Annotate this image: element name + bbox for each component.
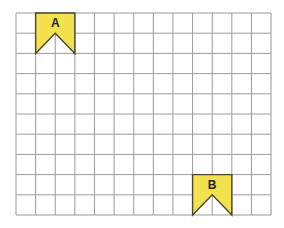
grid-lines (16, 13, 271, 215)
flag-label: B (208, 178, 217, 192)
grid-canvas: AB (0, 0, 284, 228)
grid-diagram: AB (0, 0, 284, 228)
flag-label: A (51, 16, 60, 30)
